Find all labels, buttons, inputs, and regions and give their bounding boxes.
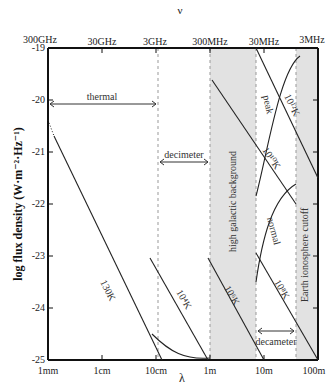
top-tick-3: 300MHz bbox=[192, 36, 228, 47]
radio-flux-chart: thermal decimeter decameter 130K 10⁴K 10… bbox=[0, 0, 332, 388]
bottom-tick-2: 10cm bbox=[145, 365, 167, 376]
label-1e10k: 10¹⁰K bbox=[260, 145, 283, 172]
y-tick-3: -22 bbox=[32, 198, 45, 209]
range-arrows bbox=[50, 101, 294, 334]
bottom-tick-0: 1mm bbox=[38, 365, 59, 376]
top-tick-1: 30GHz bbox=[88, 36, 117, 47]
bottom-tick-4: 10m bbox=[255, 365, 273, 376]
label-1e8k: 10⁸K bbox=[272, 278, 292, 302]
y-tick-6: -25 bbox=[32, 354, 45, 365]
y-tick-5: -24 bbox=[32, 302, 45, 313]
line-130k bbox=[54, 136, 162, 360]
label-thermal: thermal bbox=[87, 91, 118, 102]
label-1e4k: 10⁴K bbox=[174, 288, 194, 312]
bottom-tick-5: 100m bbox=[303, 365, 326, 376]
label-ionosphere-cutoff: Earth ionosphere cutoff bbox=[299, 207, 310, 302]
label-peak: peak bbox=[261, 94, 276, 115]
y-tick-2: -21 bbox=[32, 146, 45, 157]
y-tick-4: -23 bbox=[32, 250, 45, 261]
y-axis-title: log flux density (W·m⁻²·Hz⁻¹) bbox=[11, 127, 25, 281]
x-axis-title: λ bbox=[179, 371, 185, 385]
top-tick-5: 3MHz bbox=[299, 34, 325, 45]
label-galactic-background: high galactic background bbox=[227, 151, 238, 252]
label-decimeter: decimeter bbox=[164, 149, 204, 160]
y-tick-1: -20 bbox=[32, 94, 45, 105]
top-axis-title: ν bbox=[178, 4, 183, 16]
curve-thermal bbox=[152, 334, 210, 358]
bottom-tick-3: 1m bbox=[204, 365, 217, 376]
top-tick-2: 3GHz bbox=[143, 36, 167, 47]
label-decameter: decameter bbox=[255, 336, 297, 347]
line-1e4k bbox=[150, 258, 208, 360]
label-normal: normal bbox=[265, 216, 283, 246]
y-tick-0: -19 bbox=[32, 42, 45, 53]
top-tick-4: 30MHz bbox=[249, 36, 280, 47]
label-130k: 130K bbox=[98, 278, 118, 303]
bottom-tick-1: 1cm bbox=[93, 365, 110, 376]
